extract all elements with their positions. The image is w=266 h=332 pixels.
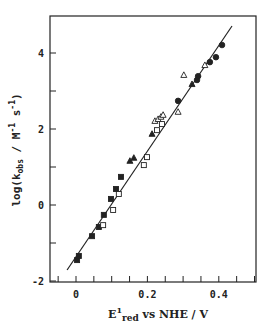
circle-marker bbox=[219, 42, 225, 48]
square-marker bbox=[108, 196, 113, 201]
y-tick-label: 0 bbox=[38, 200, 44, 211]
square-marker bbox=[101, 212, 106, 217]
y-tick-label: 4 bbox=[38, 48, 44, 59]
circle-marker bbox=[195, 73, 201, 79]
data-points bbox=[75, 42, 225, 262]
square-marker bbox=[145, 155, 150, 160]
square-marker bbox=[160, 122, 165, 127]
y-tick-label: 2 bbox=[38, 124, 44, 135]
square-marker bbox=[113, 187, 118, 192]
circle-marker bbox=[213, 54, 219, 60]
circle-marker bbox=[207, 59, 213, 65]
y-tick-label: -2 bbox=[32, 276, 44, 287]
square-marker bbox=[76, 253, 81, 258]
x-tick-label: 0.2 bbox=[138, 289, 156, 300]
scatter-chart: 00.20.4 -2024 E1red vs NHE / V log(kobs … bbox=[0, 0, 266, 332]
triangle-marker bbox=[131, 155, 137, 161]
triangle-marker bbox=[181, 72, 187, 78]
x-axis-ticks: 00.20.4 bbox=[58, 276, 254, 300]
square-marker bbox=[90, 234, 95, 239]
x-tick-label: 0.4 bbox=[210, 289, 228, 300]
square-marker bbox=[141, 163, 146, 168]
square-marker bbox=[118, 174, 123, 179]
y-axis-title: log(kobs / M-1 s-1) bbox=[8, 93, 25, 206]
x-tick-label: 0 bbox=[73, 289, 79, 300]
square-marker bbox=[116, 191, 121, 196]
square-marker bbox=[111, 207, 116, 212]
circle-marker bbox=[175, 98, 181, 104]
y-axis-ticks: -2024 bbox=[32, 48, 56, 287]
square-marker bbox=[101, 223, 106, 228]
plot-frame bbox=[50, 16, 256, 282]
x-axis-title: E1red vs NHE / V bbox=[108, 305, 208, 323]
square-marker bbox=[155, 128, 160, 133]
